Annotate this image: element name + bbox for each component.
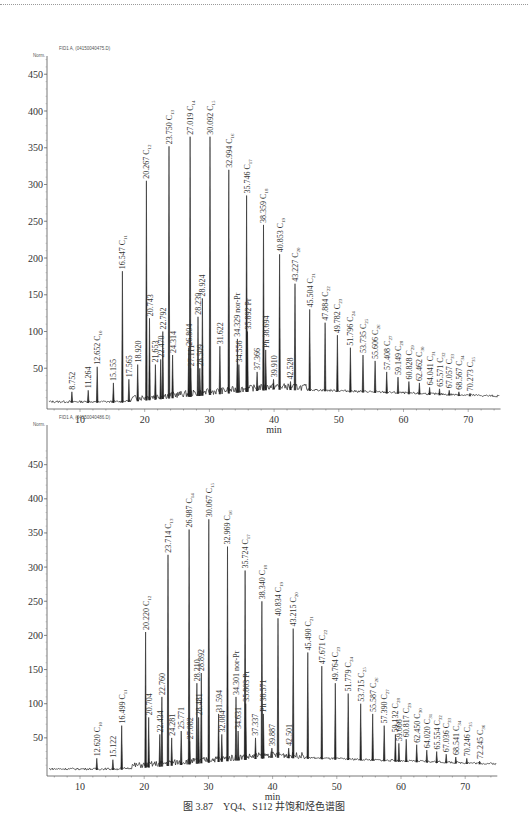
peak-label: 40.853 C19 xyxy=(276,217,286,252)
peak xyxy=(458,392,460,396)
peak xyxy=(408,382,410,395)
peak xyxy=(290,382,292,391)
peak-label: 51.796 C24 xyxy=(346,311,356,346)
peak xyxy=(419,383,421,395)
peak xyxy=(426,750,428,762)
x-tick-label: 70 xyxy=(463,414,473,425)
peak-label: 30.092 C15 xyxy=(206,100,216,135)
peak-label: 35.724 C17 xyxy=(241,534,251,569)
x-tick-label: 70 xyxy=(460,781,470,792)
y-tick-label: 450 xyxy=(28,459,43,470)
peak-label: 47.884 C22 xyxy=(321,286,331,321)
peak xyxy=(146,181,148,401)
peak-label: 32.084 xyxy=(218,710,227,732)
x-tick-label: 60 xyxy=(396,781,406,792)
peak-label: 35.892 Pr xyxy=(244,298,253,329)
peak xyxy=(237,731,239,760)
peak xyxy=(256,372,258,391)
y-tick-label: 350 xyxy=(28,142,43,153)
peak xyxy=(137,365,139,402)
peak-label: 70.273 C35 xyxy=(466,356,476,391)
peak xyxy=(113,383,115,403)
peak xyxy=(238,365,240,393)
peak-label: 31.622 xyxy=(216,322,225,344)
x-tick-label: 20 xyxy=(140,414,150,425)
chromatogram-1: FID1 A, (04150040486.D)Norm.501001502002… xyxy=(28,415,497,802)
peak-label: 34.329 nor-Pr xyxy=(233,292,242,337)
peak xyxy=(96,367,98,403)
y-tick-label: 200 xyxy=(28,630,43,641)
x-tick-label: 60 xyxy=(399,414,409,425)
peak xyxy=(112,760,114,770)
y-tick-label: 400 xyxy=(28,493,43,504)
peak-label: 37.337 xyxy=(252,714,261,736)
y-tick-label: 250 xyxy=(28,596,43,607)
peak xyxy=(121,726,123,770)
peak xyxy=(445,754,447,763)
x-tick-label: 20 xyxy=(139,781,149,792)
peak-label: 68.567 C34 xyxy=(455,355,465,390)
peak xyxy=(448,390,450,395)
peak-label: 30.067 C15 xyxy=(205,482,215,517)
peak-label: 28.924 xyxy=(198,274,207,296)
peak-label: 22.792 xyxy=(159,308,168,330)
peak xyxy=(372,714,374,761)
peak-label: 28.509 xyxy=(196,344,205,366)
peak xyxy=(288,748,290,758)
peak xyxy=(374,361,376,393)
peak xyxy=(227,547,229,762)
peak-label: 34.631 xyxy=(234,707,243,729)
peak-label: 38.340 C18 xyxy=(258,564,268,599)
peak xyxy=(309,309,311,390)
peak-label: 27.019 C14 xyxy=(186,100,196,135)
peak xyxy=(398,743,400,761)
peak xyxy=(436,752,438,763)
y-tick-label: 400 xyxy=(28,106,43,117)
peak-label: 35.803 Pr xyxy=(242,670,251,701)
peak-label: 34.556 xyxy=(235,341,244,363)
peak-label: 49.764 C23 xyxy=(331,646,341,681)
peak xyxy=(273,379,275,389)
peak xyxy=(148,717,150,767)
peak-label: 65.571 C32 xyxy=(436,352,446,387)
peak-label: 45.490 C21 xyxy=(304,616,314,651)
peak xyxy=(172,355,174,398)
peak-label: 28.892 xyxy=(197,649,206,671)
peak xyxy=(347,694,349,761)
peak xyxy=(208,519,210,762)
peak-label: 34.301 nor-Pr xyxy=(232,650,241,695)
x-tick-label: 30 xyxy=(203,781,213,792)
peak xyxy=(209,137,211,395)
peak xyxy=(429,387,431,394)
peak-label: 22.470 xyxy=(157,335,166,357)
peak xyxy=(405,739,407,762)
peak-label: 28.481 xyxy=(195,693,204,715)
peak-label: 55.587 C26 xyxy=(369,677,379,712)
peak-label: 49.782 C23 xyxy=(333,298,343,333)
peak xyxy=(149,318,151,400)
peak-label: 12.620 C10 xyxy=(93,721,103,756)
peak xyxy=(466,758,468,764)
peak xyxy=(221,734,223,761)
peak-label: 20.220 C12 xyxy=(142,595,152,630)
peak xyxy=(87,390,89,402)
y-tick-label: 150 xyxy=(28,289,43,300)
peak-label: 20.743 xyxy=(146,294,155,316)
peak-label: 16.499 C11 xyxy=(118,689,128,724)
x-tick-label: 50 xyxy=(334,414,344,425)
peak-label: Ph 38.571 xyxy=(259,679,268,711)
peak xyxy=(128,379,130,402)
peak xyxy=(383,726,385,762)
peak-label: 40.834 C19 xyxy=(274,581,284,616)
peak xyxy=(171,738,173,766)
peak-label: 72.245 C36 xyxy=(476,724,486,759)
x-tick-label: 50 xyxy=(332,781,342,792)
peak xyxy=(155,365,157,400)
peak-label: 57.390 C27 xyxy=(380,689,390,724)
peak xyxy=(71,392,73,403)
peak-label: 67.036 C33 xyxy=(442,717,452,752)
peak xyxy=(279,254,281,389)
y-unit-label: Norm. xyxy=(33,53,45,58)
peak xyxy=(397,377,399,394)
peak-label: 20.704 xyxy=(145,693,154,715)
